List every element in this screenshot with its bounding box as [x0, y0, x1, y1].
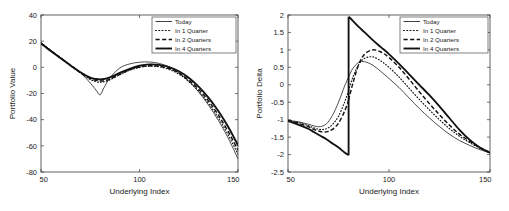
portfolio-value-series-in-4-quarters: [41, 44, 238, 146]
portfolio-value-xtick-label: 150: [227, 175, 240, 184]
portfolio-value-ytick-label: 20: [29, 37, 37, 46]
portfolio-value-legend-label-q2: In 2 Quarters: [175, 36, 211, 43]
portfolio-value-xlabel: Underlying Index: [109, 187, 169, 196]
portfolio-delta-ytick-label: 2: [280, 11, 284, 20]
portfolio-delta-xtick-label: 100: [383, 175, 396, 184]
portfolio-value-legend-label-today: Today: [175, 18, 192, 25]
portfolio-delta-ytick-label: 0.5: [274, 63, 284, 72]
portfolio-value-ytick-label: -20: [26, 89, 37, 98]
portfolio-delta-ytick-label: -2.5: [271, 168, 284, 177]
portfolio-delta-legend-label-q4: In 4 Quarters: [423, 45, 459, 52]
portfolio-delta-ytick-label: 1: [280, 46, 284, 55]
portfolio-value-ytick-label: 40: [29, 11, 37, 20]
portfolio-delta-ytick-label: 1.5: [274, 28, 284, 37]
portfolio-delta-plot: 21.510.50-0.5-1-1.5-2-2.550100150Underly…: [255, 0, 509, 211]
portfolio-delta-series-today: [288, 61, 490, 152]
portfolio-delta-xtick-label: 50: [287, 175, 295, 184]
portfolio-value-ylabel: Portfolio Value: [8, 67, 17, 119]
portfolio-value-xtick-label: 100: [133, 175, 146, 184]
portfolio-value-ytick-label: 0: [33, 63, 37, 72]
portfolio-delta-legend-label-q2: In 2 Quarters: [423, 36, 459, 43]
portfolio-delta-xlabel: Underlying Index: [359, 187, 419, 196]
portfolio-delta-ytick-label: -1: [277, 115, 284, 124]
portfolio-delta-series-in-1-quarter: [288, 57, 490, 153]
chart-panel-portfolio-delta: 21.510.50-0.5-1-1.5-2-2.550100150Underly…: [255, 0, 509, 211]
portfolio-delta-ytick-label: 0: [280, 80, 284, 89]
portfolio-value-ytick-label: -40: [26, 115, 37, 124]
portfolio-value-xtick-label: 50: [40, 175, 48, 184]
portfolio-delta-ytick-label: -1.5: [271, 133, 284, 142]
portfolio-delta-ytick-label: -2: [277, 150, 284, 159]
portfolio-value-legend-label-q4: In 4 Quarters: [175, 45, 211, 52]
portfolio-value-legend-label-q1: In 1 Quarter: [175, 27, 208, 34]
portfolio-value-ytick-label: -60: [26, 142, 37, 151]
portfolio-delta-ytick-label: -0.5: [271, 98, 284, 107]
portfolio-delta-ylabel: Portfolio Delta: [255, 68, 264, 119]
chart-panel-portfolio-value: 40200-20-40-60-8050100150Underlying Inde…: [0, 0, 254, 211]
portfolio-value-plot: 40200-20-40-60-8050100150Underlying Inde…: [0, 0, 254, 211]
portfolio-delta-legend-label-q1: In 1 Quarter: [423, 27, 456, 34]
portfolio-delta-legend-label-today: Today: [423, 18, 440, 25]
portfolio-delta-series-in-2-quarters: [288, 50, 490, 153]
portfolio-delta-xtick-label: 150: [479, 175, 492, 184]
portfolio-value-ytick-label: -80: [26, 168, 37, 177]
portfolio-figure: 40200-20-40-60-8050100150Underlying Inde…: [0, 0, 509, 211]
